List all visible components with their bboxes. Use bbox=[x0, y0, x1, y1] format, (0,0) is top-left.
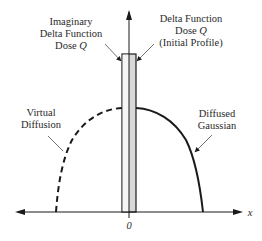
diffused-gaussian-label-line1: Diffused bbox=[199, 108, 236, 119]
x-axis-right-arrowhead-icon bbox=[233, 209, 243, 215]
diffused-gaussian-label-line2: Gaussian bbox=[198, 120, 237, 131]
virtual-diffusion-leader bbox=[48, 136, 63, 151]
virtual-diffusion-curve bbox=[56, 108, 122, 212]
diffused-gaussian-curve bbox=[136, 108, 203, 212]
imaginary-delta-label-line1: Imaginary bbox=[49, 16, 93, 27]
delta-function-label-line1: Delta Function bbox=[160, 13, 223, 24]
x-axis-label: x bbox=[247, 207, 253, 218]
diffusion-diagram: Imaginary Delta Function Dose Q Delta Fu… bbox=[0, 0, 262, 241]
imaginary-delta-half bbox=[123, 55, 129, 212]
diffused-gaussian-leader bbox=[195, 135, 212, 152]
delta-function-label-line2: Dose Q bbox=[175, 25, 207, 36]
imaginary-delta-label-line3: Dose Q bbox=[55, 40, 87, 51]
imaginary-delta-label-line2: Delta Function bbox=[40, 28, 103, 39]
y-axis-arrowhead-icon bbox=[126, 10, 132, 20]
delta-function-label-line3: (Initial Profile) bbox=[159, 37, 223, 49]
origin-label: 0 bbox=[126, 220, 132, 231]
virtual-diffusion-label-line2: Diffusion bbox=[21, 119, 62, 130]
x-axis-left-arrowhead-icon bbox=[15, 209, 25, 215]
imaginary-delta-leader bbox=[105, 44, 121, 61]
delta-function-leader bbox=[137, 44, 154, 61]
virtual-diffusion-label-line1: Virtual bbox=[26, 107, 55, 118]
